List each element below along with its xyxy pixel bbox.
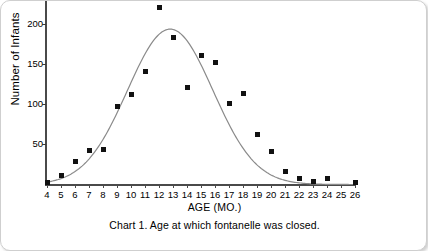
data-point-marker [325, 176, 330, 181]
data-point-marker [171, 35, 176, 40]
data-point-marker [241, 91, 246, 96]
data-point-marker [101, 147, 106, 152]
data-point-marker [311, 179, 316, 184]
data-point-marker [213, 60, 218, 65]
chart-caption: Chart 1. Age at which fontanelle was clo… [1, 219, 428, 231]
data-point-marker [73, 159, 78, 164]
y-axis-tick-mark [42, 24, 46, 25]
data-point-marker [199, 53, 204, 58]
data-point-marker [129, 92, 134, 97]
x-axis-title: AGE (MO.) [1, 201, 428, 213]
data-point-marker [255, 132, 260, 137]
y-axis-tick-mark [42, 144, 46, 145]
fitted-curve [1, 1, 428, 201]
y-axis-tick-mark [42, 104, 46, 105]
data-point-marker [297, 176, 302, 181]
data-point-marker [115, 104, 120, 109]
data-point-marker [45, 180, 50, 185]
data-point-marker [87, 148, 92, 153]
plot-area: Number of Infants 50100150200 4567891011… [1, 1, 428, 201]
data-point-marker [227, 101, 232, 106]
data-point-marker [157, 5, 162, 10]
data-point-marker [59, 173, 64, 178]
data-point-marker [283, 169, 288, 174]
data-point-marker [269, 149, 274, 154]
data-point-marker [353, 180, 358, 185]
y-axis-tick-mark [42, 64, 46, 65]
data-point-marker [185, 85, 190, 90]
data-point-marker [143, 69, 148, 74]
